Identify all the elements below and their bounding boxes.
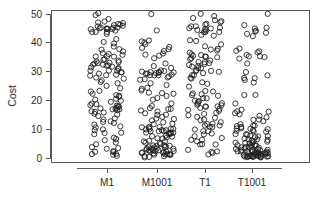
y-tick-label: 0 — [36, 153, 42, 164]
data-point — [208, 68, 213, 73]
data-point — [189, 137, 194, 142]
chart-canvas: 01020304050 M1M1001T1T1001 Cost — [0, 0, 325, 199]
data-point — [233, 101, 238, 106]
data-point — [152, 56, 157, 61]
data-point — [218, 120, 223, 125]
data-point — [93, 54, 98, 59]
data-point — [187, 38, 192, 43]
data-point — [108, 119, 113, 124]
data-point — [208, 26, 213, 31]
data-point — [264, 25, 269, 30]
series-t1001 — [232, 11, 271, 160]
data-point — [265, 73, 270, 78]
data-point — [169, 101, 174, 106]
data-point — [141, 139, 146, 144]
data-point — [211, 33, 216, 38]
data-point — [188, 57, 193, 62]
data-point — [266, 109, 271, 114]
data-point — [192, 127, 197, 132]
data-point — [194, 38, 199, 43]
data-point — [98, 79, 103, 84]
data-point — [104, 146, 109, 151]
data-point — [243, 70, 248, 75]
data-point — [120, 52, 125, 57]
data-point — [88, 103, 93, 108]
data-point — [150, 97, 155, 102]
data-point — [102, 138, 107, 143]
data-point — [208, 47, 213, 52]
data-point — [104, 83, 109, 88]
data-point — [97, 88, 102, 93]
series-m1001 — [138, 11, 177, 159]
data-point — [88, 68, 93, 73]
data-point — [101, 110, 106, 115]
data-point — [121, 76, 126, 81]
data-point — [113, 140, 118, 145]
data-point — [204, 96, 209, 101]
data-point — [186, 84, 191, 89]
data-point — [161, 120, 166, 125]
data-point — [191, 15, 196, 20]
data-point — [215, 55, 220, 60]
data-point — [251, 117, 256, 122]
data-point — [165, 75, 170, 80]
data-point — [101, 39, 106, 44]
data-point — [111, 44, 116, 49]
data-point — [244, 31, 249, 36]
data-point — [198, 105, 203, 110]
data-point — [146, 90, 151, 95]
data-point — [205, 81, 210, 86]
data-point — [99, 47, 104, 52]
y-tick-label: 40 — [31, 37, 43, 48]
data-point — [242, 23, 247, 28]
series-t1 — [186, 11, 225, 157]
data-point — [186, 113, 191, 118]
y-axis-title: Cost — [6, 85, 18, 107]
data-point — [201, 117, 206, 122]
data-point — [143, 52, 148, 57]
data-point — [200, 71, 205, 76]
data-point — [255, 50, 260, 55]
x-tick-label-t1001: T1001 — [238, 177, 267, 188]
data-point — [145, 85, 150, 90]
series-m1 — [88, 11, 127, 159]
y-axis: 01020304050 — [31, 9, 51, 164]
x-axis: M1M1001T1T1001 — [77, 168, 282, 188]
data-point — [108, 99, 113, 104]
data-point — [115, 81, 120, 86]
data-point — [265, 11, 270, 16]
data-point — [201, 132, 206, 137]
data-point — [163, 61, 168, 66]
data-point — [139, 45, 144, 50]
x-tick-label-m1: M1 — [100, 177, 114, 188]
data-point — [143, 130, 148, 135]
y-tick-label: 50 — [31, 9, 43, 20]
data-point — [104, 73, 109, 78]
data-point — [210, 89, 215, 94]
data-points-layer — [88, 11, 272, 160]
data-point — [186, 107, 191, 112]
data-point — [164, 82, 169, 87]
data-point — [198, 11, 203, 16]
data-point — [154, 28, 159, 33]
data-point — [218, 42, 223, 47]
data-point — [215, 93, 220, 98]
data-point — [101, 62, 106, 67]
data-point — [242, 92, 247, 97]
y-tick-label: 10 — [31, 124, 43, 135]
data-point — [217, 123, 222, 128]
x-tick-label-m1001: M1001 — [142, 177, 173, 188]
data-point — [237, 56, 242, 61]
data-point — [94, 75, 99, 80]
data-point — [143, 111, 148, 116]
y-tick-label: 20 — [31, 95, 43, 106]
data-point — [102, 19, 107, 24]
strip-chart: 01020304050 M1M1001T1T1001 Cost — [0, 0, 325, 199]
data-point — [164, 93, 169, 98]
data-point — [151, 63, 156, 68]
x-tick-label-t1: T1 — [199, 177, 211, 188]
data-point — [233, 131, 238, 136]
data-point — [216, 69, 221, 74]
data-point — [202, 44, 207, 49]
data-point — [89, 145, 94, 150]
